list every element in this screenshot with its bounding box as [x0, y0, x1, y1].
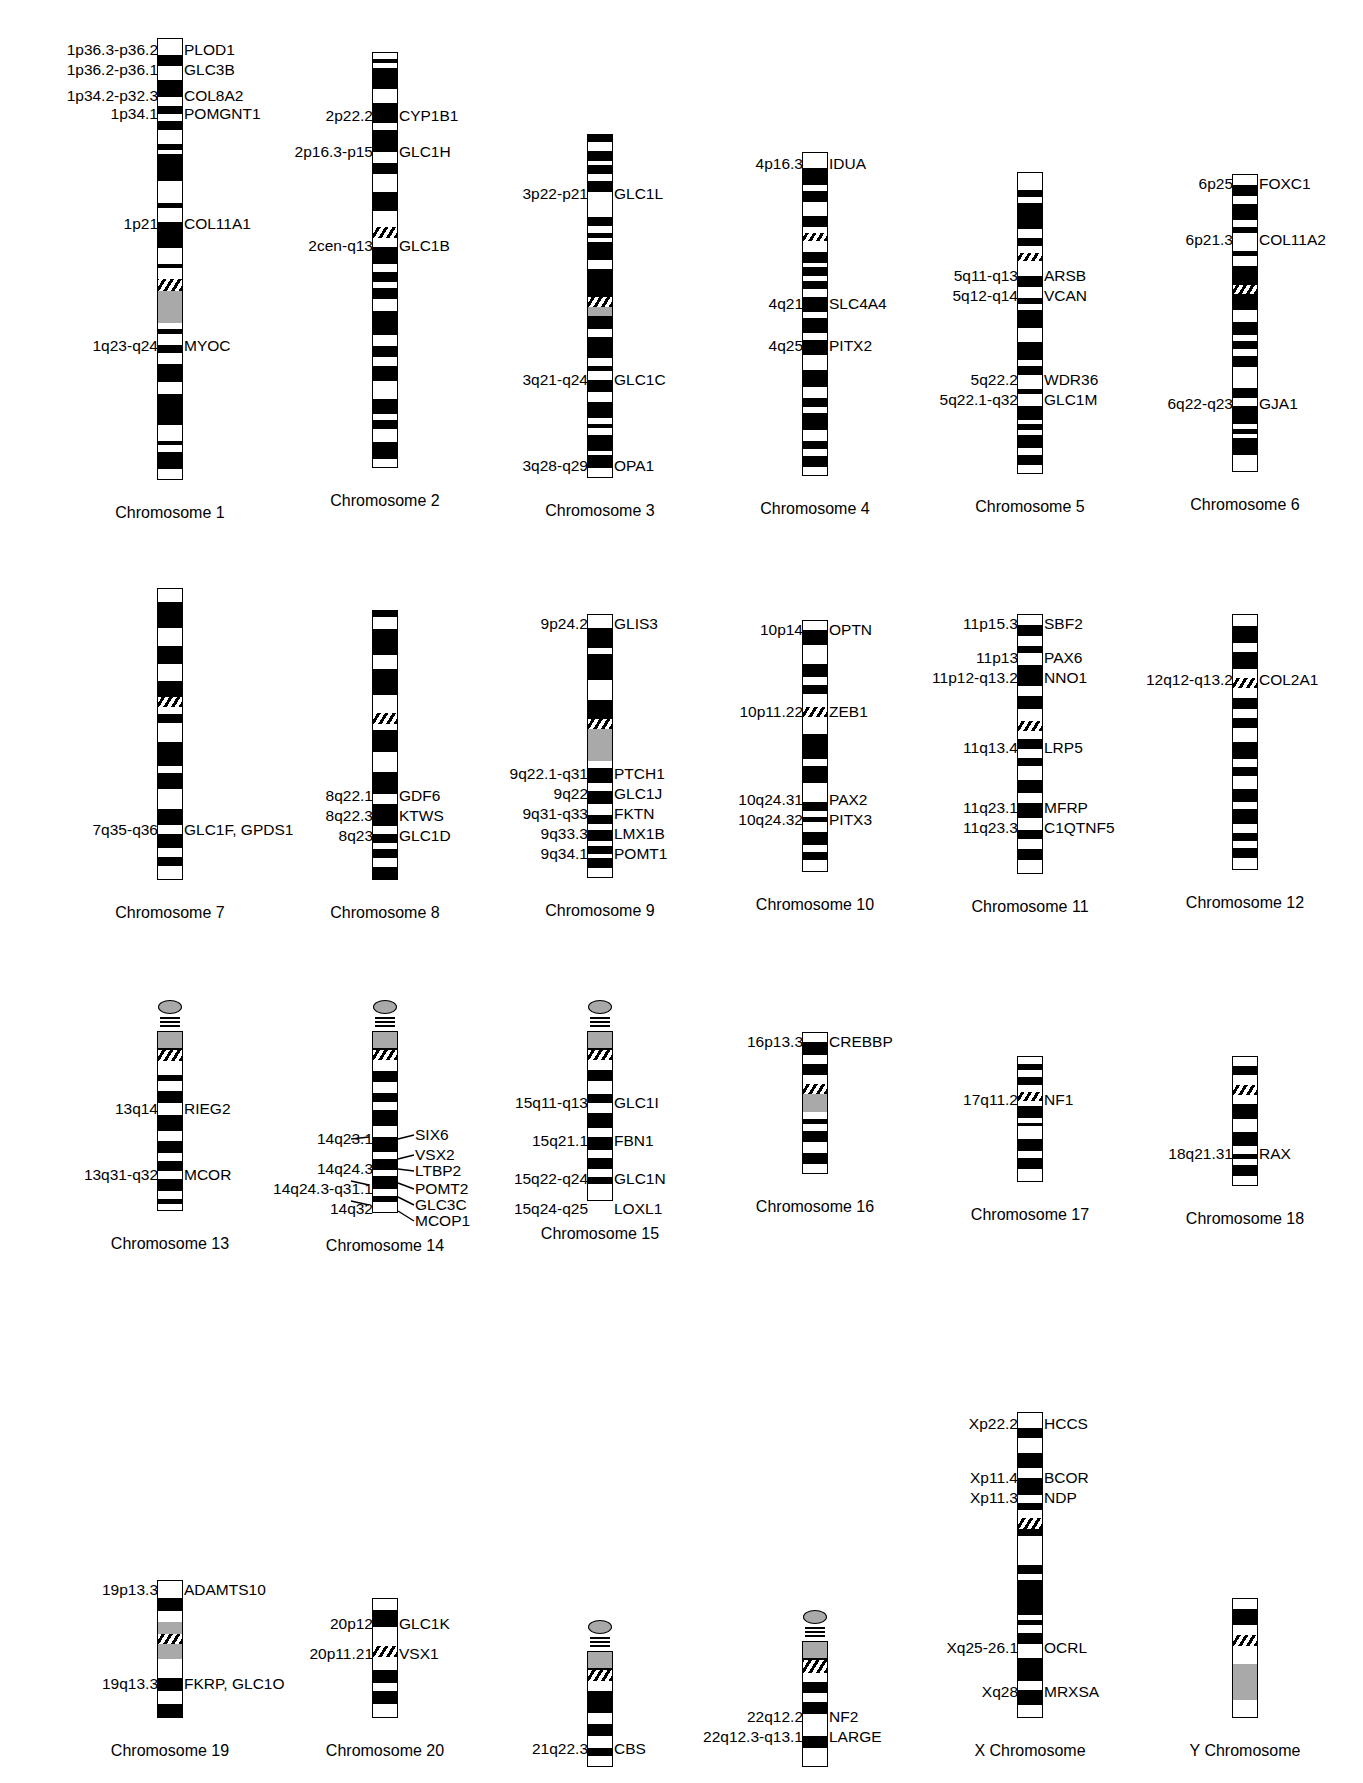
band-light [1233, 1057, 1257, 1066]
band-light [158, 97, 182, 106]
band-light [1233, 1176, 1257, 1185]
band-light [373, 1060, 397, 1071]
band-dark [158, 1115, 182, 1131]
band-dark [588, 830, 612, 841]
band-gray [588, 1652, 612, 1668]
chromosome-caption: Chromosome 20 [275, 1742, 495, 1760]
band-dark [373, 1071, 397, 1082]
p-arm-chr15 [587, 1031, 613, 1049]
band-light [373, 381, 397, 399]
centromere [1233, 285, 1257, 294]
cytoband-label: Xq25-26.1 [946, 1640, 1018, 1656]
cytoband-label: 4q25 [769, 338, 803, 354]
centromere [373, 713, 397, 724]
p-arm-chr13 [157, 1031, 183, 1049]
gene-label: POMT2 [415, 1181, 468, 1197]
cytoband-label: 19q13.3 [102, 1676, 158, 1692]
band-light [803, 645, 827, 664]
band-dark [1233, 718, 1257, 727]
band-dark [588, 435, 612, 451]
band-dark [803, 1153, 827, 1164]
band-dark [588, 791, 612, 804]
gene-label: GJA1 [1259, 396, 1298, 412]
band-dark [158, 1704, 182, 1717]
band-dark [1233, 266, 1257, 285]
chromosome-chr3: 3p22-p213q21-q243q28-q29GLC1LGLC1COPA1Ch… [490, 94, 710, 536]
cytoband-label: 6p21.3 [1186, 232, 1233, 248]
cytoband-label: 11q23.3 [963, 820, 1018, 836]
band-light [158, 1081, 182, 1091]
band-dark [158, 364, 182, 382]
band-dark [1233, 356, 1257, 367]
band-dark [1018, 310, 1042, 328]
band-light [588, 1103, 612, 1112]
band-light [1233, 709, 1257, 718]
band-dark [1018, 1503, 1042, 1511]
ideogram-body-chr5 [1017, 172, 1043, 474]
band-dark [373, 311, 397, 335]
cytoband-label: 8q22.1 [326, 788, 373, 804]
band-light [1018, 246, 1042, 253]
chromosome-caption: Chromosome 11 [920, 898, 1140, 916]
cytoband-label: 17q11.2 [963, 1092, 1018, 1108]
chromosome-chr13: 13q1413q31-q32RIEG2MCORChromosome 13 [60, 960, 280, 1220]
band-light [1233, 1700, 1257, 1717]
band-light [1233, 175, 1257, 185]
satellite-chr22 [803, 1610, 827, 1624]
cytoband-label: 11p15.3 [963, 616, 1018, 632]
gene-label: OPA1 [614, 458, 654, 474]
gene-label: RAX [1259, 1146, 1291, 1162]
band-light [588, 804, 612, 815]
cytoband-label: 4p16.3 [756, 156, 803, 172]
band-light [1233, 841, 1257, 848]
band-dark [588, 768, 612, 783]
band-light [1018, 1625, 1042, 1633]
cytoband-label: 11q13.4 [963, 740, 1018, 756]
band-dark [1018, 1565, 1042, 1575]
band-dark [803, 267, 827, 275]
cytoband-label: 1p36.3-p36.2 [67, 42, 158, 58]
band-light [373, 174, 397, 192]
cytoband-label: 18q21.31 [1168, 1146, 1233, 1162]
band-light [373, 794, 397, 804]
band-dark [588, 654, 612, 680]
cytoband-label: 8q23 [339, 828, 373, 844]
band-light [373, 357, 397, 365]
band-light [803, 467, 827, 475]
cytoband-label: 7q35-q36 [92, 822, 158, 838]
band-light [803, 677, 827, 684]
gene-label: GLC1L [614, 186, 663, 202]
gene-label: ADAMTS10 [184, 1582, 266, 1598]
band-light [588, 1128, 612, 1137]
band-dark [1018, 1658, 1042, 1681]
band-dark [588, 181, 612, 192]
cytoband-label: 9q33.3 [541, 826, 588, 842]
band-light [1018, 860, 1042, 873]
cytoband-label: 2p22.2 [326, 108, 373, 124]
band-light [373, 1704, 397, 1717]
gene-label: IDUA [829, 156, 866, 172]
cytoband-label: 10p11.22 [740, 704, 804, 720]
band-gray [588, 1032, 612, 1048]
band-dark [803, 832, 827, 845]
band-light [1233, 824, 1257, 833]
band-light [588, 1150, 612, 1158]
band-light [373, 1126, 397, 1137]
ideogram-body-chr15 [587, 1049, 613, 1201]
band-dark [1233, 652, 1257, 669]
band-light [1018, 793, 1042, 803]
band-light [803, 759, 827, 766]
cytoband-label: 2p16.3-p15 [295, 144, 373, 160]
centromere [1233, 678, 1257, 688]
band-light [803, 1075, 827, 1084]
band-dark [588, 217, 612, 226]
band-light [373, 655, 397, 669]
band-light [158, 66, 182, 80]
gene-label: GDF6 [399, 788, 440, 804]
band-dark [803, 852, 827, 859]
band-dark [373, 247, 397, 263]
band-light [1018, 261, 1042, 276]
band-light [803, 845, 827, 852]
gene-label: COL11A2 [1259, 232, 1326, 248]
band-light [1233, 1075, 1257, 1084]
